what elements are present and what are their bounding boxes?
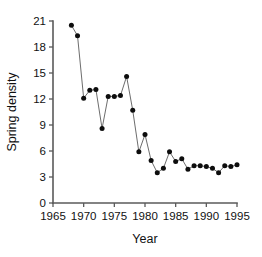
data-point-1978 <box>130 108 135 113</box>
series-line-spring-density <box>71 25 237 172</box>
data-point-1988 <box>192 163 197 168</box>
y-tick-label-12: 12 <box>33 93 46 105</box>
data-point-1977 <box>124 74 129 79</box>
x-tick-label-1985: 1985 <box>163 210 189 222</box>
chart-canvas: 036912151821 196519701975198019851990199… <box>0 0 262 257</box>
x-tick-label-1980: 1980 <box>132 210 158 222</box>
y-tick-label-21: 21 <box>33 15 46 27</box>
data-point-1995 <box>235 162 240 167</box>
data-point-1986 <box>179 156 184 161</box>
data-point-1983 <box>161 166 166 171</box>
data-point-1984 <box>167 149 172 154</box>
y-tick-label-0: 0 <box>40 197 46 209</box>
y-tick-label-6: 6 <box>40 145 46 157</box>
y-axis-title: Spring density <box>5 72 19 152</box>
x-tick-label-1975: 1975 <box>102 210 128 222</box>
x-tick-label-1990: 1990 <box>194 210 220 222</box>
y-tick-label-15: 15 <box>33 67 46 79</box>
y-tick-label-18: 18 <box>33 41 46 53</box>
tick-group <box>49 21 237 207</box>
data-point-1968 <box>69 23 74 28</box>
data-point-1994 <box>228 164 233 169</box>
data-point-1982 <box>155 170 160 175</box>
x-tick-label-1965: 1965 <box>40 210 66 222</box>
y-tick-label-3: 3 <box>40 171 46 183</box>
data-point-1985 <box>173 159 178 164</box>
data-point-1979 <box>136 149 141 154</box>
x-tick-label-1970: 1970 <box>71 210 97 222</box>
data-point-1991 <box>210 166 215 171</box>
data-point-1993 <box>222 163 227 168</box>
xtick-label-group: 1965197019751980198519901995 <box>40 210 250 222</box>
data-point-1974 <box>106 94 111 99</box>
data-point-1973 <box>100 126 105 131</box>
data-point-1969 <box>75 33 80 38</box>
data-point-1970 <box>81 96 86 101</box>
ytick-label-group: 036912151821 <box>33 15 46 209</box>
marker-group <box>69 23 240 175</box>
data-point-1980 <box>143 132 148 137</box>
series-group <box>71 25 237 172</box>
data-point-1976 <box>118 93 123 98</box>
x-axis-title: Year <box>132 232 157 246</box>
spring-density-chart: 036912151821 196519701975198019851990199… <box>0 0 262 257</box>
data-point-1971 <box>87 88 92 93</box>
data-point-1972 <box>93 87 98 92</box>
data-point-1992 <box>216 170 221 175</box>
data-point-1989 <box>198 163 203 168</box>
data-point-1990 <box>204 164 209 169</box>
data-point-1987 <box>185 167 190 172</box>
y-tick-label-9: 9 <box>40 119 46 131</box>
data-point-1981 <box>149 158 154 163</box>
data-point-1975 <box>112 94 117 99</box>
x-tick-label-1995: 1995 <box>224 210 250 222</box>
